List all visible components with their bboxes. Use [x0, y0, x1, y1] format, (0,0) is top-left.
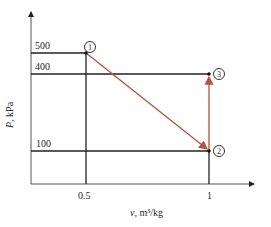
state-point-2 — [207, 149, 211, 153]
x-axis-unit: , m³/kg — [134, 207, 163, 218]
y-tick-500: 500 — [35, 41, 50, 51]
pv-diagram — [0, 0, 271, 227]
x-axis-label: v, m³/kg — [130, 208, 163, 218]
y-tick-100: 100 — [36, 139, 51, 149]
state-label-3: 3 — [213, 68, 225, 80]
x-tick-0-5: 0.5 — [78, 191, 91, 201]
x-tick-1: 1 — [207, 191, 212, 201]
state-label-2: 2 — [213, 145, 225, 157]
y-axis-label: P, kPa — [4, 102, 15, 128]
state-point-3 — [207, 72, 211, 76]
y-tick-400: 400 — [35, 62, 50, 72]
y-axis-unit: , kPa — [4, 102, 15, 122]
process-1-2 — [86, 53, 207, 149]
y-axis-symbol: P — [4, 122, 15, 128]
state-label-1: 1 — [84, 41, 96, 53]
